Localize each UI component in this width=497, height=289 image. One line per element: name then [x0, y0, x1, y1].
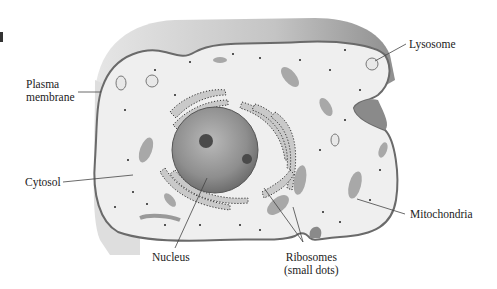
page-edge-mark [0, 32, 3, 42]
label-ribosomes: Ribosomes (small dots) [284, 251, 339, 277]
label-ribosomes-line2: (small dots) [284, 264, 339, 277]
label-plasma-membrane: Plasma membrane [26, 78, 75, 104]
label-ribosomes-line1: Ribosomes [284, 251, 339, 264]
label-plasma-line1: Plasma [26, 78, 75, 91]
nucleus [172, 107, 258, 193]
label-lysosome: Lysosome [409, 38, 456, 51]
label-nucleus: Nucleus [152, 251, 190, 264]
label-plasma-line2: membrane [26, 91, 75, 104]
label-cytosol: Cytosol [25, 176, 61, 189]
nucleolus-1 [199, 134, 213, 148]
nucleolus-2 [242, 154, 252, 164]
label-mitochondria: Mitochondria [410, 208, 473, 221]
cell-diagram: Plasma membrane Cytosol Nucleus Ribosome… [0, 0, 497, 289]
